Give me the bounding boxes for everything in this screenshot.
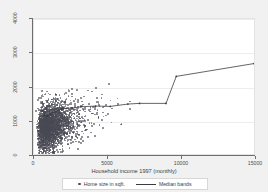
- x-tick-label: 0: [18, 160, 48, 166]
- y-tick-label: 1000: [12, 110, 18, 132]
- median-band-point: [80, 106, 82, 108]
- median-band-point: [55, 111, 57, 113]
- y-tick-mark: [29, 18, 32, 19]
- x-tick-mark: [181, 156, 182, 159]
- y-tick-mark: [29, 52, 32, 53]
- x-tick-mark: [255, 156, 256, 159]
- graph-region: 01000200030004000 050001000015000 Househ…: [0, 0, 268, 192]
- median-band-point: [109, 106, 111, 108]
- line-marker-icon: [136, 184, 156, 185]
- y-tick-label: 3000: [12, 41, 18, 63]
- median-band-point: [95, 105, 97, 107]
- x-tick-mark: [33, 156, 34, 159]
- legend-item-scatter: Home size in sqft.: [78, 181, 124, 187]
- plot-area: [33, 18, 255, 155]
- median-bands-line: [34, 19, 254, 154]
- median-band-point: [253, 63, 254, 65]
- x-axis-line: [32, 155, 255, 156]
- median-band-point: [52, 112, 54, 114]
- x-tick-mark: [107, 156, 108, 159]
- x-tick-label: 5000: [92, 160, 122, 166]
- median-band-point: [46, 115, 48, 117]
- median-band-point: [58, 109, 60, 111]
- x-tick-label: 15000: [240, 160, 268, 166]
- legend-label-scatter: Home size in sqft.: [84, 181, 125, 187]
- legend-label-line: Median bands: [159, 181, 192, 187]
- median-band-point: [127, 103, 129, 105]
- legend-item-line: Median bands: [136, 181, 192, 187]
- x-axis-title: Household income 1997 (monthly): [0, 168, 268, 174]
- median-band-point: [165, 102, 167, 104]
- median-band-point: [139, 102, 141, 104]
- median-band-point: [175, 75, 177, 77]
- y-tick-mark: [29, 87, 32, 88]
- median-band-point: [65, 108, 67, 110]
- y-tick-label: 2000: [12, 76, 18, 98]
- median-band-point: [61, 108, 63, 110]
- circle-marker-icon: [78, 183, 80, 185]
- y-tick-mark: [29, 155, 32, 156]
- stata-scatter-figure: 01000200030004000 050001000015000 Househ…: [0, 0, 268, 192]
- median-band-point: [49, 113, 51, 115]
- y-tick-mark: [29, 121, 32, 122]
- y-tick-label: 4000: [12, 7, 18, 29]
- y-axis-line: [32, 18, 33, 155]
- median-band-point: [71, 107, 73, 109]
- median-band-point: [43, 114, 45, 116]
- x-tick-label: 10000: [166, 160, 196, 166]
- legend: Home size in sqft. Median bands: [62, 178, 208, 190]
